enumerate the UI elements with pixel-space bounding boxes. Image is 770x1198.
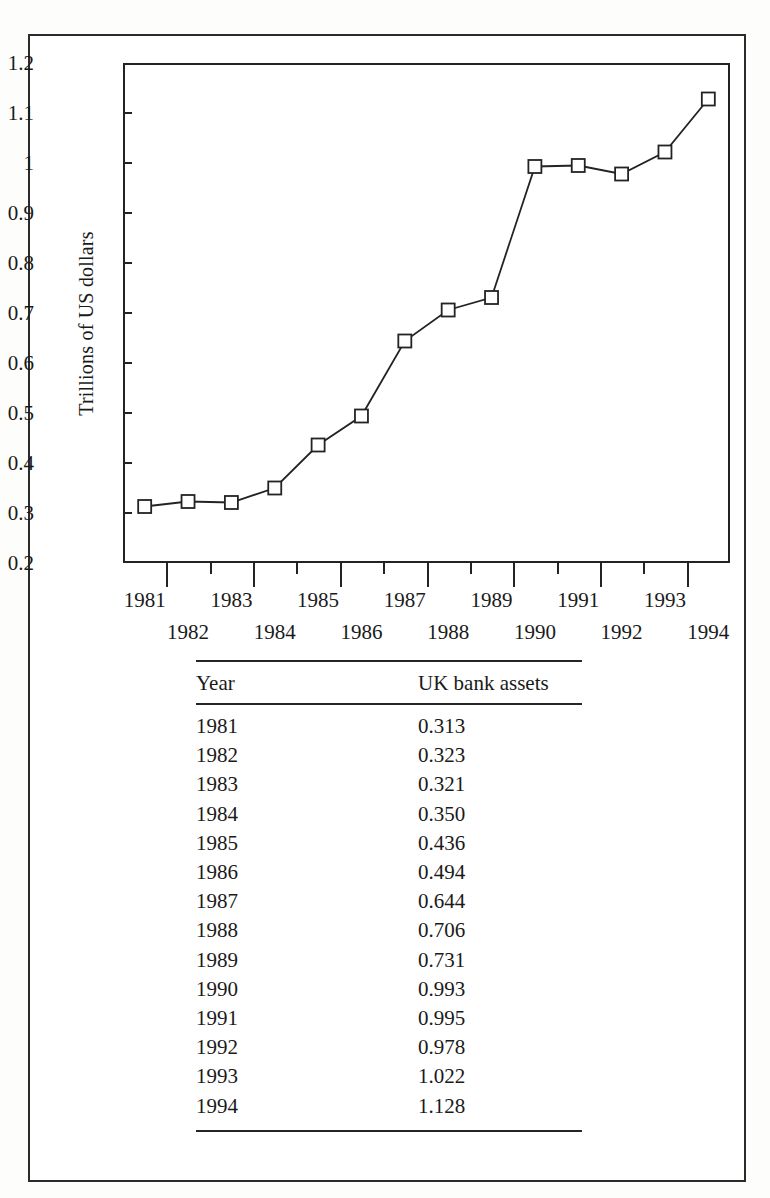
cell-year: 1982	[196, 741, 418, 770]
table-row: 19920.978	[196, 1033, 582, 1062]
data-point-marker	[312, 439, 325, 452]
cell-value: 0.494	[418, 858, 582, 887]
x-tick-label: 1985	[297, 590, 339, 611]
y-tick-label: 0.8	[0, 253, 34, 274]
x-tick-label: 1982	[167, 622, 209, 643]
x-tick-label: 1981	[124, 590, 166, 611]
data-point-marker	[442, 304, 455, 317]
cell-value: 0.323	[418, 741, 582, 770]
table-row: 19860.494	[196, 858, 582, 887]
x-tick-mark	[513, 563, 515, 587]
y-tick-label: 1	[0, 153, 34, 174]
x-tick-mark	[340, 563, 342, 587]
table-row: 19890.731	[196, 946, 582, 975]
x-tick-label: 1990	[514, 622, 556, 643]
x-tick-mark	[296, 563, 298, 574]
x-tick-label: 1988	[427, 622, 469, 643]
cell-value: 0.706	[418, 916, 582, 945]
cell-year: 1981	[196, 712, 418, 741]
x-tick-mark	[253, 563, 255, 587]
cell-value: 0.978	[418, 1033, 582, 1062]
cell-year: 1992	[196, 1033, 418, 1062]
cell-value: 0.993	[418, 975, 582, 1004]
data-point-marker	[138, 500, 151, 513]
cell-year: 1983	[196, 770, 418, 799]
cell-year: 1988	[196, 916, 418, 945]
cell-year: 1994	[196, 1092, 418, 1121]
table-bottom-rule	[196, 1130, 582, 1132]
x-tick-label: 1991	[557, 590, 599, 611]
page-canvas: Trillions of US dollars 1.21.110.90.80.7…	[0, 0, 770, 1198]
data-point-marker	[355, 410, 368, 423]
cell-value: 0.313	[418, 712, 582, 741]
line-chart-figure: Trillions of US dollars 1.21.110.90.80.7…	[28, 34, 746, 634]
table-row: 19850.436	[196, 829, 582, 858]
cell-value: 1.022	[418, 1062, 582, 1091]
data-point-marker	[658, 146, 671, 159]
cell-year: 1987	[196, 887, 418, 916]
cell-value: 0.731	[418, 946, 582, 975]
data-point-marker	[182, 495, 195, 508]
cell-year: 1990	[196, 975, 418, 1004]
data-point-marker	[225, 496, 238, 509]
table-row: 19941.128	[196, 1092, 582, 1121]
y-tick-label: 0.2	[0, 553, 34, 574]
x-tick-mark	[470, 563, 472, 574]
cell-year: 1989	[196, 946, 418, 975]
x-tick-label: 1984	[254, 622, 296, 643]
cell-value: 0.321	[418, 770, 582, 799]
table-row: 19830.321	[196, 770, 582, 799]
y-axis-title: Trillions of US dollars	[75, 114, 98, 534]
cell-value: 1.128	[418, 1092, 582, 1121]
data-point-marker	[572, 159, 585, 172]
y-tick-label: 1.1	[0, 103, 34, 124]
table-row: 19880.706	[196, 916, 582, 945]
cell-value: 0.644	[418, 887, 582, 916]
x-tick-mark	[600, 563, 602, 587]
data-point-marker	[268, 482, 281, 495]
x-tick-label: 1994	[687, 622, 729, 643]
data-point-marker	[615, 168, 628, 181]
x-tick-label: 1986	[340, 622, 382, 643]
cell-year: 1986	[196, 858, 418, 887]
column-header-year: Year	[196, 671, 418, 696]
table-row: 19840.350	[196, 800, 582, 829]
cell-year: 1985	[196, 829, 418, 858]
table-row: 19820.323	[196, 741, 582, 770]
cell-value: 0.436	[418, 829, 582, 858]
x-tick-label: 1983	[210, 590, 252, 611]
x-tick-label: 1993	[644, 590, 686, 611]
data-point-marker	[485, 291, 498, 304]
x-tick-mark	[687, 563, 689, 587]
y-tick-label: 0.6	[0, 353, 34, 374]
table-row: 19931.022	[196, 1062, 582, 1091]
table-body: 19810.31319820.32319830.32119840.3501985…	[196, 705, 582, 1121]
x-tick-mark	[383, 563, 385, 574]
table-row: 19900.993	[196, 975, 582, 1004]
data-point-marker	[528, 160, 541, 173]
data-table: Year UK bank assets 19810.31319820.32319…	[196, 660, 582, 1132]
x-tick-mark	[427, 563, 429, 587]
cell-value: 0.350	[418, 800, 582, 829]
table-row: 19870.644	[196, 887, 582, 916]
x-tick-label: 1989	[471, 590, 513, 611]
plot-series-layer	[123, 63, 730, 563]
cell-year: 1993	[196, 1062, 418, 1091]
y-tick-label: 0.7	[0, 303, 34, 324]
y-tick-label: 0.9	[0, 203, 34, 224]
cell-year: 1991	[196, 1004, 418, 1033]
x-tick-mark	[166, 563, 168, 587]
x-tick-mark	[210, 563, 212, 574]
y-tick-label: 1.2	[0, 53, 34, 74]
x-tick-mark	[557, 563, 559, 574]
cell-year: 1984	[196, 800, 418, 829]
y-tick-label: 0.5	[0, 403, 34, 424]
table-bottom-rule-wrap	[196, 1121, 582, 1132]
x-tick-label: 1987	[384, 590, 426, 611]
column-header-value: UK bank assets	[418, 671, 582, 696]
series-line-uk-bank-assets	[145, 99, 709, 507]
table-row: 19810.313	[196, 712, 582, 741]
x-tick-mark	[643, 563, 645, 574]
table-row: 19910.995	[196, 1004, 582, 1033]
data-point-marker	[702, 93, 715, 106]
